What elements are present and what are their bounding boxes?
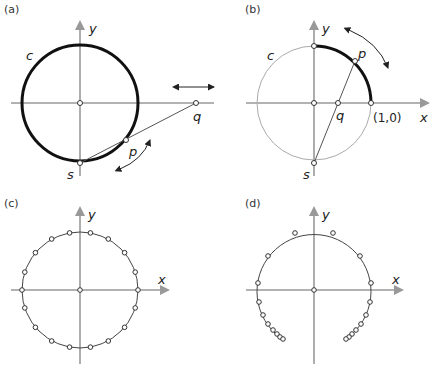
point-one-zero (369, 101, 374, 106)
panel-d-label: (d) (245, 197, 261, 210)
circle-label: c (26, 48, 33, 63)
panel-b: (b) y x c p q s (1,0) (245, 3, 428, 182)
panel-b-label: (b) (245, 3, 261, 16)
point-s (78, 161, 83, 166)
origin-point (78, 101, 83, 106)
point-s (312, 161, 317, 166)
panel-c-label: (c) (4, 197, 19, 210)
point-q-label: q (336, 108, 344, 123)
panel-a-label: (a) (4, 3, 19, 16)
origin-point (312, 101, 317, 106)
point-q-label: q (193, 109, 201, 124)
x-axis-label: x (157, 272, 166, 287)
point-p (124, 138, 129, 143)
y-axis-label: y (88, 21, 97, 36)
point-s-label: s (67, 167, 74, 182)
circle-label: c (267, 48, 274, 63)
point-p-label: p (357, 46, 366, 61)
point-p-label: p (128, 144, 137, 159)
x-axis-label: x (419, 110, 428, 125)
point-q (194, 101, 199, 106)
top-point (312, 44, 317, 49)
point-p (353, 59, 358, 64)
point-q (336, 101, 341, 106)
panel-c: (c) y x (4, 197, 168, 364)
point-s-label: s (303, 167, 310, 182)
panel-a: (a) y c q s p (4, 3, 214, 182)
y-axis-label: y (321, 21, 330, 36)
point-one-zero-label: (1,0) (373, 111, 401, 125)
stereographic-projection-figure: (a) y c q s p (b) y x c (0, 0, 432, 375)
y-axis-label: y (321, 207, 330, 222)
y-axis-label: y (87, 207, 96, 222)
panel-d: (d) y x (245, 197, 402, 364)
x-axis-label: x (391, 272, 400, 287)
